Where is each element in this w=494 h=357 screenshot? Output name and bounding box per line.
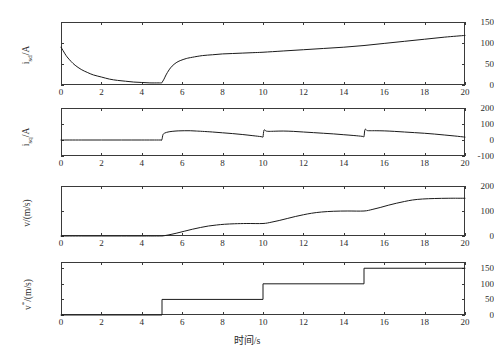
xtick-label: 18	[420, 239, 429, 248]
subplot-isq: isq/A -1000100200 02468101214161820	[0, 100, 494, 178]
ytick-mark	[462, 156, 465, 157]
ytick-mark	[61, 85, 64, 86]
ytick-mark	[462, 236, 465, 237]
subplot-isd-plot	[61, 22, 465, 85]
xtick-label: 12	[299, 159, 308, 168]
xtick-label: 2	[99, 88, 104, 97]
xtick-label: 4	[140, 239, 145, 248]
xtick-label: 12	[299, 88, 308, 97]
subplot-isq-plot	[61, 108, 465, 156]
xtick-label: 20	[461, 159, 470, 168]
xtick-label: 12	[299, 239, 308, 248]
xtick-label: 6	[180, 239, 185, 248]
subplot-isq-ylabel: isq/A	[21, 107, 35, 167]
xtick-label: 20	[461, 88, 470, 97]
xtick-mark	[465, 22, 466, 25]
subplot-velocity-ref-plot	[61, 262, 465, 315]
xtick-label: 10	[259, 318, 268, 327]
subplot-isd-ylabel: isd/A	[21, 25, 35, 85]
xtick-label: 0	[59, 88, 64, 97]
xtick-label: 2	[99, 159, 104, 168]
ytick-mark	[462, 315, 465, 316]
xtick-label: 10	[259, 239, 268, 248]
xtick-label: 4	[140, 318, 145, 327]
xtick-label: 16	[380, 318, 389, 327]
xtick-label: 8	[220, 88, 225, 97]
xtick-label: 4	[140, 159, 145, 168]
xtick-label: 16	[380, 239, 389, 248]
series-velocity-ref	[61, 268, 465, 315]
ylabel-unit: /A	[21, 128, 31, 138]
ylabel-sub: *	[20, 302, 28, 306]
xtick-label: 20	[461, 239, 470, 248]
xtick-label: 8	[220, 159, 225, 168]
xtick-label: 12	[299, 318, 308, 327]
xtick-label: 0	[59, 159, 64, 168]
ylabel-sub: sq	[26, 137, 34, 143]
xtick-label: 8	[220, 318, 225, 327]
ylabel-sub: sd	[26, 55, 34, 61]
xtick-label: 6	[180, 88, 185, 97]
ylabel-base: v	[22, 222, 32, 227]
xtick-label: 2	[99, 239, 104, 248]
xtick-label: 0	[59, 318, 64, 327]
ytick-mark	[462, 85, 465, 86]
xtick-label: 6	[180, 159, 185, 168]
xtick-mark	[465, 262, 466, 265]
xtick-mark	[465, 312, 466, 315]
xtick-label: 2	[99, 318, 104, 327]
subplot-velocity-ylabel: v/(m/s)	[22, 182, 32, 244]
xtick-label: 6	[180, 318, 185, 327]
series-isq	[61, 129, 465, 140]
xtick-label: 16	[380, 88, 389, 97]
xtick-mark	[465, 108, 466, 111]
xtick-label: 10	[259, 88, 268, 97]
subplot-velocity-ref: v*/(m/s) 050100150 02468101214161820 时间/…	[0, 256, 494, 357]
series-isd	[61, 35, 465, 82]
subplot-isd: isd/A 050100150 02468101214161820	[0, 0, 494, 100]
ylabel-unit: /A	[21, 46, 31, 56]
ylabel-base: v	[23, 305, 33, 310]
ylabel-unit: /(m/s)	[22, 199, 32, 222]
xtick-label: 14	[339, 88, 348, 97]
xtick-label: 0	[59, 239, 64, 248]
figure-canvas: isd/A 050100150 02468101214161820 isq/A …	[0, 0, 494, 357]
ytick-mark	[61, 156, 64, 157]
xtick-label: 4	[140, 88, 145, 97]
xtick-label: 18	[420, 88, 429, 97]
xtick-label: 14	[339, 239, 348, 248]
xtick-label: 16	[380, 159, 389, 168]
xtick-label: 10	[259, 159, 268, 168]
xtick-label: 14	[339, 318, 348, 327]
xtick-label: 20	[461, 318, 470, 327]
subplot-velocity: v/(m/s) 0100200 02468101214161820	[0, 178, 494, 256]
xtick-mark	[465, 153, 466, 156]
xtick-label: 14	[339, 159, 348, 168]
ylabel-unit: /(m/s)	[23, 279, 33, 302]
xtick-label: 18	[420, 318, 429, 327]
series-velocity	[61, 198, 465, 236]
xtick-label: 18	[420, 159, 429, 168]
subplot-velocity-plot	[61, 186, 465, 236]
xtick-mark	[465, 186, 466, 189]
xtick-mark	[465, 82, 466, 85]
xtick-mark	[465, 233, 466, 236]
xtick-label: 8	[220, 239, 225, 248]
x-axis-label: 时间/s	[0, 332, 494, 347]
subplot-velocity-ref-ylabel: v*/(m/s)	[19, 263, 32, 327]
